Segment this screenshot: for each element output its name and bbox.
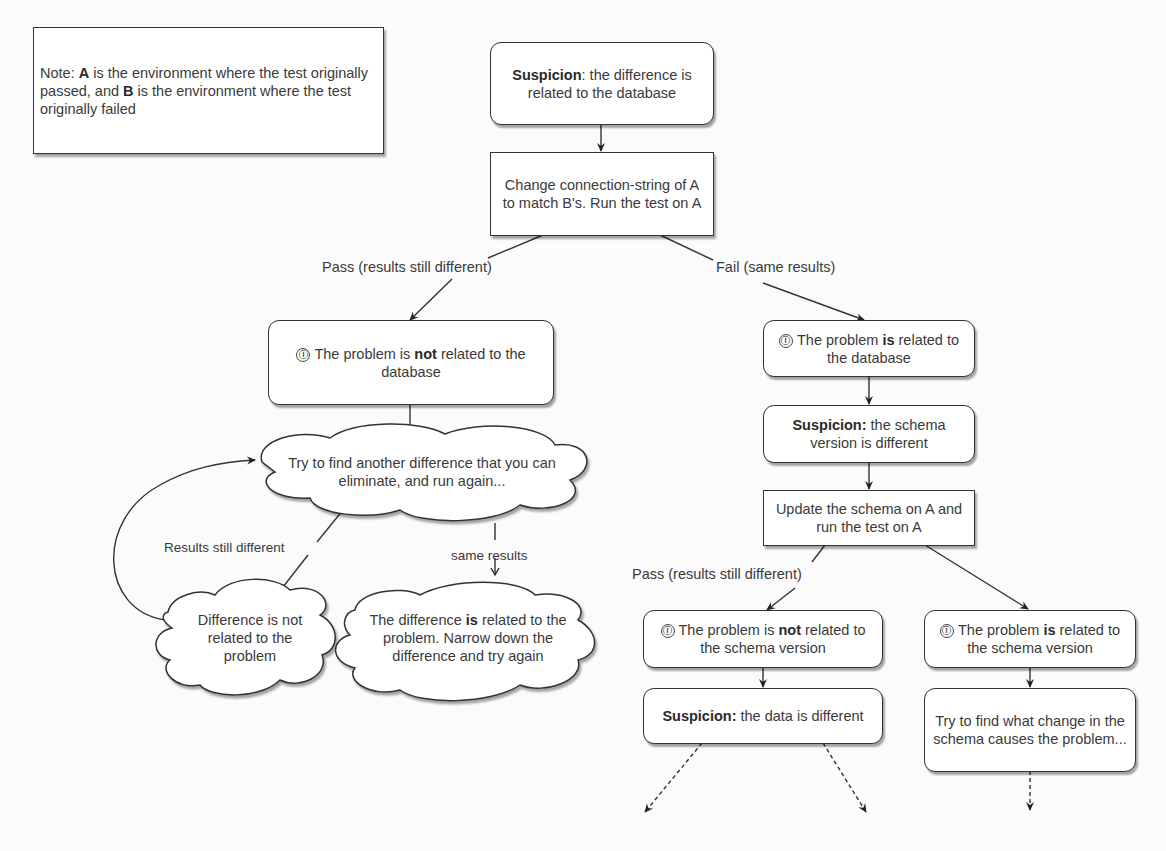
edge-label-pass-db: Pass (results still different) xyxy=(322,259,492,275)
note-text: Note: A is the environment where the tes… xyxy=(40,64,377,118)
cloud-try-another-difference: Try to find another difference that you … xyxy=(262,440,582,504)
edge-label-same-results: same results xyxy=(451,548,528,563)
info-icon: ⓘ xyxy=(779,334,793,348)
edge-label-results-still-different: Results still different xyxy=(164,540,285,555)
note-box: Note: A is the environment where the tes… xyxy=(33,27,384,154)
cloud-difference-is-related: The difference is related to the problem… xyxy=(348,596,588,680)
node-suspicion-data: Suspicion: the data is different xyxy=(643,688,883,744)
node-change-connection-string: Change connection-string of A to match B… xyxy=(490,152,714,236)
info-icon: ⓘ xyxy=(940,624,954,638)
info-icon: ⓘ xyxy=(296,348,310,362)
edge-label-pass-schema: Pass (results still different) xyxy=(632,566,802,582)
node-not-related-schema: ⓘThe problem is not related to the schem… xyxy=(643,610,883,668)
node-suspicion-schema: Suspicion: the schema version is differe… xyxy=(763,405,975,463)
info-icon: ⓘ xyxy=(661,624,675,638)
node-suspicion-database: Suspicion: the difference is related to … xyxy=(490,42,714,125)
edge-label-fail-db: Fail (same results) xyxy=(716,259,835,275)
node-not-related-database: ⓘThe problem is not related to the datab… xyxy=(268,320,554,405)
node-find-schema-change: Try to find what change in the schema ca… xyxy=(924,688,1136,772)
cloud-difference-not-related: Difference is not related to the problem xyxy=(175,596,325,680)
node-is-related-schema: ⓘThe problem is related to the schema ve… xyxy=(924,610,1136,668)
node-update-schema: Update the schema on A and run the test … xyxy=(763,490,975,546)
node-is-related-database: ⓘThe problem is related to the database xyxy=(763,320,975,377)
